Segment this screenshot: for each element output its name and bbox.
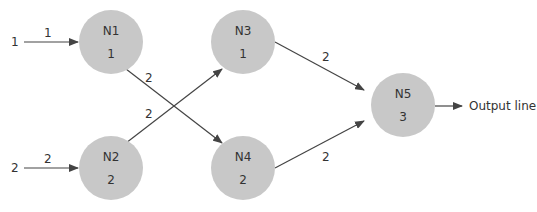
input-weight-1: 1 xyxy=(44,27,52,39)
weight-n3-n5: 2 xyxy=(322,51,330,63)
node-n3-value: 1 xyxy=(239,48,247,60)
node-n2-name: N2 xyxy=(103,151,120,163)
input-value-2: 2 xyxy=(11,162,19,174)
node-n5-value: 3 xyxy=(399,111,407,123)
output-line-label: Output line xyxy=(469,100,536,112)
node-n1-value: 1 xyxy=(107,48,115,60)
network-diagram: 1 1 2 2 2 2 2 2 N1 1 N2 2 N3 1 N4 2 N5 3… xyxy=(0,0,537,212)
node-n2-value: 2 xyxy=(107,174,115,186)
node-n1: N1 1 xyxy=(79,10,143,74)
input-weight-2: 2 xyxy=(44,153,52,165)
edge-n4-n5 xyxy=(275,121,364,168)
weight-n4-n5: 2 xyxy=(322,151,330,163)
edge-n3-n5 xyxy=(275,42,364,90)
weight-n2-n3: 2 xyxy=(145,108,153,120)
weight-n1-n4: 2 xyxy=(145,72,153,84)
node-n1-name: N1 xyxy=(103,25,120,37)
node-n4: N4 2 xyxy=(211,136,275,200)
node-n5-name: N5 xyxy=(395,88,412,100)
node-n3: N3 1 xyxy=(211,10,275,74)
node-n2: N2 2 xyxy=(79,136,143,200)
node-n5: N5 3 xyxy=(371,73,435,137)
node-n4-name: N4 xyxy=(235,151,252,163)
node-n4-value: 2 xyxy=(239,174,247,186)
node-n3-name: N3 xyxy=(235,25,252,37)
input-value-1: 1 xyxy=(11,36,19,48)
